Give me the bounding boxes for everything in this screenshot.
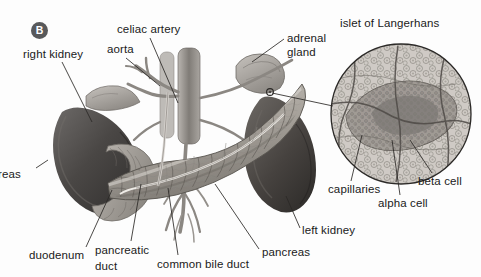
label-pancreas: pancreas [262, 246, 310, 259]
islet-of-langerhans-inset [331, 44, 471, 184]
anatomy-illustration [0, 0, 481, 277]
panel-badge-b: B [31, 22, 48, 39]
label-pancreatic-duct-line2: duct [95, 260, 117, 273]
label-right-kidney: right kidney [23, 48, 83, 61]
anatomy-figure-panel-b: B right kidney celiac artery aorta adren… [0, 0, 481, 277]
label-left-kidney: left kidney [302, 224, 355, 237]
label-duodenum: duodenum [29, 249, 84, 262]
label-beta-cell: beta cell [418, 175, 462, 188]
label-alpha-cell: alpha cell [378, 197, 428, 210]
label-common-bile-duct: common bile duct [157, 258, 249, 271]
label-pancreatic-duct-line1: pancreatic [95, 244, 149, 257]
label-capillaries: capillaries [328, 183, 380, 196]
label-adrenal-gland-line1: adrenal [287, 32, 326, 45]
label-aorta: aorta [107, 43, 134, 56]
adrenal-gland-illustration [236, 54, 285, 93]
label-adrenal-gland-line2: gland [287, 46, 316, 59]
label-islet-of-langerhans: islet of Langerhans [340, 17, 439, 30]
label-celiac-artery: celiac artery [117, 23, 181, 36]
label-pancreas-cutoff: reas [0, 168, 21, 181]
